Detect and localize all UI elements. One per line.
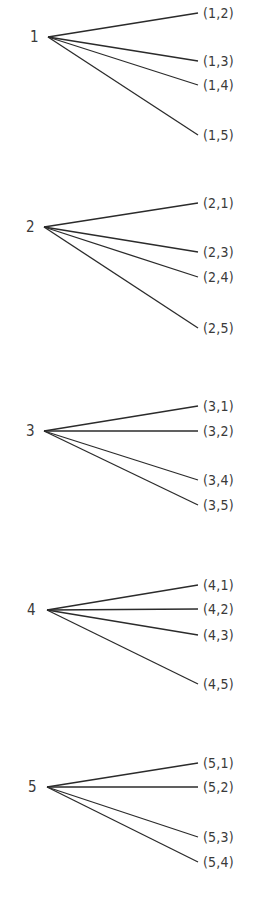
edge — [47, 610, 198, 684]
root-node-label: 2 — [26, 219, 35, 235]
edge — [44, 227, 198, 252]
leaf-label: (4,5) — [203, 676, 234, 692]
leaf-label: (5,2) — [203, 779, 234, 795]
leaf-label: (4,2) — [203, 601, 234, 617]
edge — [44, 203, 198, 227]
leaf-label: (1,4) — [203, 77, 234, 93]
branch-group-2 — [44, 203, 198, 328]
edge — [47, 763, 198, 787]
leaf-label: (3,4) — [203, 472, 234, 488]
leaf-label: (5,1) — [203, 755, 234, 771]
leaf-label: (1,5) — [203, 127, 234, 143]
leaf-label: (2,4) — [203, 269, 234, 285]
leaf-label: (3,5) — [203, 497, 234, 513]
root-node-label: 4 — [27, 602, 36, 618]
edge — [47, 787, 198, 837]
leaf-label: (5,3) — [203, 829, 234, 845]
edge — [48, 13, 198, 37]
root-node-label: 3 — [26, 423, 35, 439]
leaf-label: (1,2) — [203, 5, 234, 21]
edge — [47, 787, 198, 862]
edge — [47, 585, 198, 610]
leaf-label: (4,1) — [203, 577, 234, 593]
leaf-label: (5,4) — [203, 854, 234, 870]
edge — [44, 406, 198, 431]
edge — [44, 227, 198, 328]
leaf-label: (2,3) — [203, 244, 234, 260]
branch-group-5 — [47, 763, 198, 862]
root-node-label: 5 — [28, 779, 37, 795]
branch-group-4 — [47, 585, 198, 684]
edge — [44, 227, 198, 277]
leaf-label: (3,2) — [203, 423, 234, 439]
branch-group-1 — [48, 13, 198, 135]
edge — [44, 431, 198, 480]
edge — [44, 431, 198, 505]
leaf-label: (2,1) — [203, 195, 234, 211]
edge — [47, 610, 198, 635]
root-node-label: 1 — [30, 29, 39, 45]
leaf-label: (1,3) — [203, 53, 234, 69]
edge — [48, 37, 198, 85]
leaf-label: (2,5) — [203, 320, 234, 336]
branch-group-3 — [44, 406, 198, 505]
edge — [48, 37, 198, 61]
leaf-label: (3,1) — [203, 398, 234, 414]
leaf-label: (4,3) — [203, 627, 234, 643]
edge — [47, 609, 198, 610]
edge — [48, 37, 198, 135]
